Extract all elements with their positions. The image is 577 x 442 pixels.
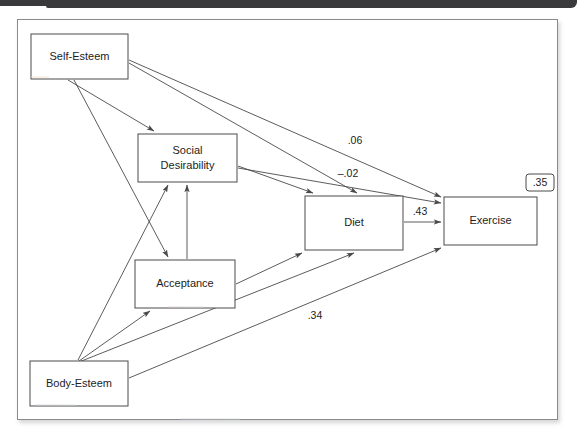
path-diagram: Self-Esteem Social Desirability Acceptan… xyxy=(0,0,577,442)
node-social-desirability-label-line2: Desirability xyxy=(161,159,215,171)
coefficient-self-esteem-to-exercise: .06 xyxy=(348,134,363,146)
path-body-esteem-to-acceptance xyxy=(79,311,150,361)
node-body-esteem-label: Body-Esteem xyxy=(46,377,112,389)
coefficient-social-desirability-to-exercise: –.02 xyxy=(338,167,359,179)
r-squared-badge-exercise-label: .35 xyxy=(533,176,548,188)
node-social-desirability-label-line1: Social xyxy=(173,144,203,156)
coefficient-body-esteem-to-exercise: .34 xyxy=(308,309,323,321)
node-exercise-label: Exercise xyxy=(469,214,511,226)
node-diet-label: Diet xyxy=(344,216,364,228)
scan-artifact-1 xyxy=(35,404,75,406)
path-acceptance-to-diet xyxy=(236,253,302,284)
path-self-esteem-to-social-desirability xyxy=(68,80,154,131)
scan-artifact-2 xyxy=(168,306,204,308)
node-self-esteem-label: Self-Esteem xyxy=(50,50,110,62)
scan-artifact-3 xyxy=(180,418,240,420)
figure-page: Self-Esteem Social Desirability Acceptan… xyxy=(0,0,577,442)
scan-artifact-4 xyxy=(31,76,49,78)
node-acceptance-label: Acceptance xyxy=(156,277,213,289)
coefficient-diet-to-exercise: .43 xyxy=(413,205,428,217)
